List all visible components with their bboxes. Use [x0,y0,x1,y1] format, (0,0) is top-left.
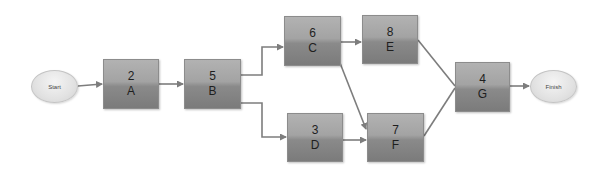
edge-c-f [340,63,366,129]
edge-start-a [78,84,102,86]
node-label: F [392,138,399,153]
node-duration: 2 [128,69,135,84]
finish-node: Finish [530,70,577,103]
activity-node-e: 8 E [362,15,418,64]
edge-b-d [241,103,286,137]
activity-node-d: 3 D [287,113,343,162]
node-duration: 5 [209,69,216,84]
node-duration: 3 [312,123,319,138]
activity-node-c: 6 C [284,16,341,66]
node-label: B [208,84,216,99]
start-label: Start [48,84,61,90]
node-label: G [478,87,487,102]
node-label: C [308,41,317,56]
edge-b-c [241,47,283,75]
node-duration: 8 [387,25,394,40]
node-duration: 6 [309,26,316,41]
network-diagram: Start 2 A 5 B 6 C 3 D 8 E 7 F 4 G Finish [0,0,605,171]
node-label: D [311,138,320,153]
node-label: E [386,40,394,55]
activity-node-g: 4 G [455,62,510,112]
edge-e-g [418,40,455,86]
node-duration: 7 [392,123,399,138]
start-node: Start [31,70,78,103]
node-label: A [127,84,135,99]
activity-node-f: 7 F [367,113,424,162]
activity-node-a: 2 A [103,59,159,109]
edge-f-g [424,88,455,136]
activity-node-b: 5 B [184,59,241,109]
node-duration: 4 [479,72,486,87]
finish-label: Finish [545,84,561,90]
